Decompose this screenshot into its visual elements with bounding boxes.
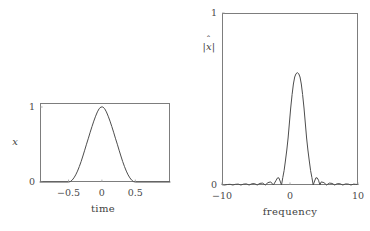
x-hat-symbol: x — [206, 42, 212, 52]
frequency-domain-xtick-label-minus-ten: −10 — [212, 191, 232, 201]
figure-canvas: 1 0 −0.5 0 0.5 x time 1 0 −10 0 10 — [0, 0, 370, 231]
frequency-domain-xtick-label-ten: 10 — [352, 191, 364, 201]
time-domain-plot: 1 0 −0.5 0 0.5 x time — [0, 0, 185, 231]
time-domain-xlabel: time — [91, 204, 115, 214]
frequency-domain-plot: 1 0 −10 0 10 |x| frequency — [185, 0, 370, 231]
frequency-domain-ytick-label-one: 1 — [208, 8, 217, 18]
frequency-domain-ylabel-magnitude: |x| — [203, 41, 215, 52]
time-domain-xtick-label-half: 0.5 — [128, 188, 143, 198]
time-domain-xtick-label-zero: 0 — [99, 188, 105, 198]
magnitude-bar-right: | — [212, 41, 215, 52]
time-domain-ytick-label-one: 1 — [26, 102, 35, 112]
time-domain-curve — [40, 107, 170, 182]
frequency-domain-curve — [222, 73, 358, 185]
time-domain-ylabel: x — [12, 137, 18, 147]
time-domain-curve-layer — [0, 0, 185, 231]
time-domain-ytick-label-zero: 0 — [26, 177, 35, 187]
time-domain-xtick-label-minus-half: −0.5 — [57, 188, 80, 198]
frequency-domain-xtick-label-zero: 0 — [287, 191, 293, 201]
frequency-domain-ylabel: |x| — [203, 42, 215, 52]
frequency-domain-xlabel: frequency — [263, 207, 317, 217]
frequency-domain-ytick-label-zero: 0 — [208, 180, 217, 190]
